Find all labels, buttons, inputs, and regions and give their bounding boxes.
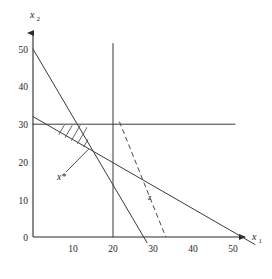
objective-contour-line bbox=[119, 122, 165, 237]
y-axis-label-subscript: 2 bbox=[37, 15, 41, 23]
y-tick-label: 30 bbox=[19, 120, 29, 130]
x-axis-label-subscript: 1 bbox=[259, 237, 263, 245]
x-tick-label: 50 bbox=[228, 244, 238, 254]
x-axis-label: x bbox=[251, 231, 257, 242]
y-tick-labels: 50 40 30 20 10 0 bbox=[19, 45, 29, 244]
constraint-lines-group bbox=[33, 44, 255, 245]
optimum-pointer-line bbox=[66, 149, 89, 172]
y-tick-label: 20 bbox=[19, 158, 29, 168]
x-tick-label: 10 bbox=[68, 244, 78, 254]
y-tick-label: 10 bbox=[19, 196, 29, 206]
y-tick-label: 40 bbox=[19, 82, 29, 92]
feasible-region-hatching bbox=[44, 112, 112, 160]
constraint-line-steep bbox=[33, 49, 147, 243]
axis-titles: x 2 x 1 bbox=[29, 9, 263, 245]
linear-programming-plot: 50 40 30 20 10 0 10 20 30 40 50 x 2 x 1 … bbox=[0, 0, 272, 279]
x-tick-label: 20 bbox=[108, 244, 118, 254]
x-tick-labels: 10 20 30 40 50 bbox=[68, 244, 238, 254]
x-tick-label: 40 bbox=[188, 244, 198, 254]
figure-container: 50 40 30 20 10 0 10 20 30 40 50 x 2 x 1 … bbox=[0, 0, 272, 279]
y-tick-label: 50 bbox=[19, 45, 29, 55]
origin-tick-label: 0 bbox=[23, 233, 28, 243]
optimum-pointer-group bbox=[66, 149, 89, 172]
x-tick-label: 30 bbox=[148, 244, 158, 254]
objective-label: z bbox=[147, 192, 152, 202]
y-axis-label: x bbox=[29, 9, 35, 20]
optimum-point-label: x* bbox=[56, 172, 66, 182]
